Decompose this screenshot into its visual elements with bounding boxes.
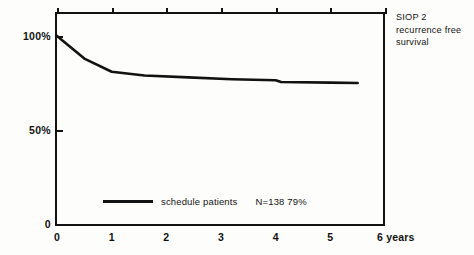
x-tick-label-2: 2 [163, 231, 169, 243]
annotation-line-1: SIOP 2 [396, 11, 461, 24]
x-tick-6 [385, 8, 387, 14]
x-tick-5 [330, 8, 332, 14]
x-tick-label-4: 4 [273, 231, 279, 243]
frame-top-border [55, 12, 385, 14]
x-tick-label-0: 0 [54, 231, 60, 243]
x-tick-label-6: 6 years [377, 231, 415, 243]
x-tick-3 [221, 8, 223, 14]
x-tick-label-5: 5 [327, 231, 333, 243]
y-tick-label-0: 0 [45, 218, 51, 230]
y-tick-50 [57, 130, 63, 132]
y-tick-label-100: 100% [23, 30, 51, 42]
legend-series-label: schedule patients [161, 196, 238, 207]
y-tick-100 [57, 36, 63, 38]
annotation-line-3: survival [396, 36, 461, 49]
x-tick-0 [57, 8, 59, 14]
x-tick-label-1: 1 [109, 231, 115, 243]
legend-series-stats: N=138 79% [256, 196, 307, 207]
x-tick-4 [276, 8, 278, 14]
x-tick-1 [112, 8, 114, 14]
frame-right-border [383, 12, 385, 226]
legend-line-swatch [103, 200, 153, 203]
x-tick-label-3: 3 [218, 231, 224, 243]
chart-container: 0123456 years 050%100% schedule patients… [0, 0, 474, 255]
chart-legend: schedule patients N=138 79% [103, 196, 307, 207]
x-axis-line [55, 224, 385, 226]
annotation-line-2: recurrence free [396, 24, 461, 37]
plot-frame [55, 12, 385, 226]
y-axis-line [55, 12, 57, 226]
panel-annotation: SIOP 2 recurrence free survival [396, 11, 461, 49]
y-tick-label-50: 50% [29, 124, 51, 136]
x-tick-2 [166, 8, 168, 14]
